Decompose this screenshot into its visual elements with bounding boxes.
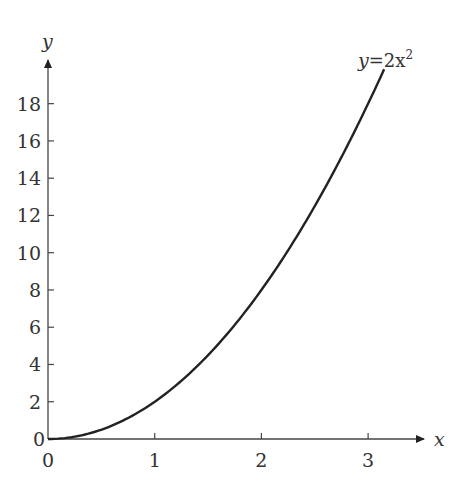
chart-canvas: 0123 24681012141618 x y 0 y=2x2 bbox=[0, 0, 466, 493]
curve-label-y: y bbox=[357, 49, 369, 71]
y-tick-label: 14 bbox=[17, 167, 41, 189]
y-tick-label: 16 bbox=[17, 130, 41, 152]
x-tick-label: 2 bbox=[255, 449, 267, 471]
curve-label-exponent: 2 bbox=[405, 48, 413, 62]
y-axis-label: y bbox=[41, 30, 53, 52]
y-tick-label: 6 bbox=[29, 316, 41, 338]
x-tick-label: 0 bbox=[42, 449, 54, 471]
y-tick-label: 10 bbox=[17, 242, 41, 264]
y-tick-label-0: 0 bbox=[33, 428, 45, 450]
y-tick-label: 4 bbox=[29, 353, 41, 375]
y-tick-label: 2 bbox=[29, 391, 41, 413]
y-tick-label: 18 bbox=[17, 93, 41, 115]
x-tick-label: 1 bbox=[149, 449, 161, 471]
curve-label: y=2x2 bbox=[357, 48, 413, 71]
y-tick-label: 8 bbox=[29, 279, 41, 301]
x-axis-label: x bbox=[434, 428, 445, 450]
x-tick-label: 3 bbox=[362, 449, 374, 471]
y-tick-label: 12 bbox=[17, 204, 41, 226]
y-ticks: 24681012141618 bbox=[17, 93, 54, 413]
curve-label-eq: =2x bbox=[369, 50, 406, 71]
curve-y-2x-squared bbox=[48, 69, 384, 439]
